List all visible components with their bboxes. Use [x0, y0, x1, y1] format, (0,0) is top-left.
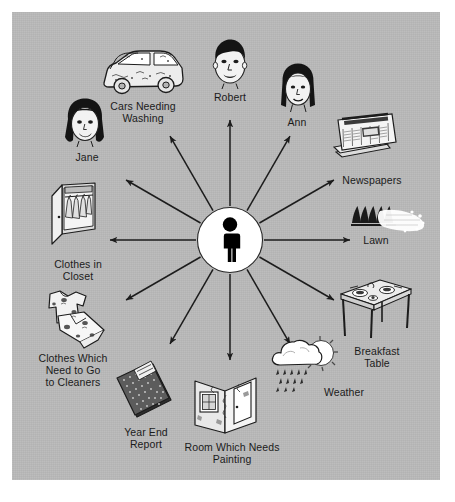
radial-spoke-diagram — [0, 0, 455, 502]
node-label-ann: Ann — [268, 116, 326, 128]
breakfast-table-icon — [341, 280, 411, 338]
node-label-breakfast-table: Breakfast Table — [340, 345, 414, 369]
spoke-arrow-newspapers — [259, 180, 333, 223]
node-label-clothes-cleaners: Clothes Which Need to Go to Cleaners — [27, 352, 119, 389]
node-label-lawn: Lawn — [348, 234, 404, 246]
spoke-arrow-cars-washing — [170, 136, 213, 210]
node-label-cars-washing: Cars Needing Washing — [99, 100, 187, 124]
newspaper-stack-icon — [334, 114, 396, 157]
girl-face-icon — [281, 64, 315, 113]
node-label-clothes-closet: Clothes in Closet — [38, 258, 118, 282]
report-book-icon — [117, 361, 171, 417]
diagram-stage: Robert Ann Newspapers Lawn Breakfast Tab… — [0, 0, 455, 502]
dirty-clothes-icon — [49, 291, 104, 348]
node-label-jane: Jane — [58, 151, 116, 163]
boy-face-icon — [213, 40, 247, 90]
node-label-newspapers: Newspapers — [329, 174, 415, 186]
spoke-arrow-clothes-cleaners — [126, 257, 200, 300]
room-corner-icon — [195, 378, 256, 433]
node-label-year-end-report: Year End Report — [110, 426, 182, 450]
spoke-arrow-ann — [247, 136, 290, 210]
sun-cloud-rain-icon — [272, 336, 338, 392]
spoke-arrow-breakfast-table — [259, 257, 333, 300]
spoke-arrow-year-end-report — [170, 269, 213, 343]
node-label-weather: Weather — [310, 386, 378, 398]
dirty-car-icon — [104, 51, 183, 94]
center-hub — [198, 208, 263, 273]
node-label-robert: Robert — [198, 91, 262, 103]
node-label-room-painting: Room Which Needs Painting — [168, 441, 296, 465]
lawn-sprinkler-icon — [351, 206, 425, 232]
spoke-arrow-weather — [247, 269, 290, 343]
spoke-arrow-jane — [126, 180, 200, 223]
closet-icon — [52, 183, 95, 244]
